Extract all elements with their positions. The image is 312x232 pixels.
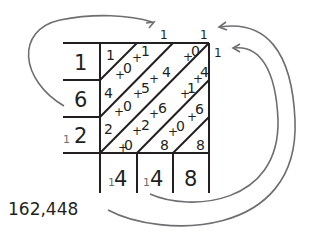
cell-digit: 0 (124, 137, 133, 153)
arrowhead-left-to-top (146, 22, 154, 28)
cell-digit: 0 (123, 98, 132, 114)
carry-arrows (29, 16, 296, 226)
cell-digit: 2 (104, 121, 113, 137)
result-carry: 1 (143, 176, 150, 189)
top-carry: 1 (160, 28, 168, 42)
row-label-carry: 1 (63, 133, 70, 146)
cell-digit: 8 (160, 137, 169, 153)
cell-digit: 6 (195, 101, 204, 117)
row-label: 2 (74, 124, 87, 148)
result-digit: 4 (114, 167, 127, 191)
final-answer: 162,448 (8, 199, 78, 219)
cell-digit: 4 (104, 85, 113, 101)
cell-digit: 4 (162, 64, 171, 80)
row-label: 6 (74, 88, 87, 112)
cell-digit: 8 (196, 137, 205, 153)
result-digit: 8 (184, 167, 197, 191)
cell-digit: 6 (158, 100, 167, 116)
cell-digit: 0 (123, 60, 132, 76)
cell-digit: 0 (176, 118, 185, 134)
row-label: 1 (74, 51, 87, 75)
lattice-diagram: 1 1 1 1 6 1 2 1 + 0 + 1 + 0 4 + 5 + 4 + … (0, 0, 312, 232)
top-carry: 1 (200, 28, 208, 42)
plus-sign: + (149, 72, 159, 86)
cell-digit: 4 (200, 64, 209, 80)
cell-digit: 0 (191, 43, 200, 59)
right-carry: 1 (214, 46, 222, 60)
result-digit: 4 (150, 167, 163, 191)
cell-digit: 1 (141, 43, 150, 59)
cell-digit: 1 (106, 47, 115, 63)
